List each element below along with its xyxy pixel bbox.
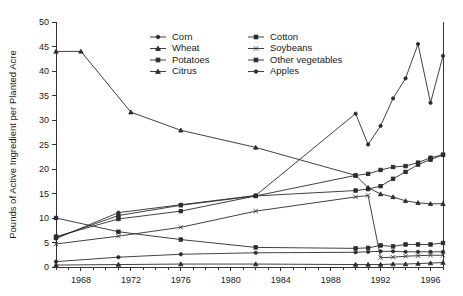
data-point-marker (404, 77, 407, 80)
data-point-marker (179, 238, 183, 242)
legend-label: Soybeans (270, 42, 313, 53)
series-soybeans (54, 193, 445, 260)
data-point-marker (156, 35, 160, 39)
legend-item-corn[interactable]: Corn (150, 31, 193, 42)
series-line (56, 263, 443, 265)
data-point-marker (54, 216, 58, 220)
data-point-marker (254, 251, 257, 254)
y-axis-title: Pounds of Active Ingredient per Planted … (7, 50, 18, 239)
data-point-marker (441, 250, 444, 253)
data-point-marker (378, 192, 382, 196)
data-point-marker (378, 262, 382, 266)
y-tick-label: 30 (39, 115, 49, 125)
data-point-marker (354, 189, 358, 193)
line-chart: 0510152025303540455019681972197619801984… (0, 0, 463, 296)
data-point-marker (428, 261, 432, 265)
y-tick-label: 50 (39, 17, 49, 27)
data-point-marker (441, 153, 445, 157)
data-point-marker (366, 187, 370, 191)
data-point-marker (441, 54, 444, 57)
data-point-marker (391, 97, 394, 100)
x-tick-label: 1984 (271, 275, 291, 285)
legend-item-potatoes[interactable]: Potatoes (150, 54, 210, 65)
data-point-marker (354, 112, 357, 115)
y-tick-label: 40 (39, 66, 49, 76)
series-citrus (54, 49, 445, 205)
data-point-marker (379, 124, 382, 127)
data-point-marker (416, 243, 420, 247)
y-axis-label: Pounds of Active Ingredient per Planted … (7, 50, 18, 239)
x-tick-label: 1976 (171, 275, 191, 285)
y-tick-label: 45 (39, 42, 49, 52)
legend-label: Other vegetables (270, 54, 343, 65)
data-point-marker (416, 261, 420, 265)
data-point-marker (429, 158, 433, 162)
x-tick-label: 1996 (421, 275, 441, 285)
data-point-marker (353, 262, 357, 266)
data-point-marker (403, 199, 407, 203)
data-point-marker (404, 164, 408, 168)
data-point-marker (441, 241, 445, 245)
data-point-marker (254, 35, 258, 39)
data-point-marker (391, 177, 395, 181)
data-point-marker (404, 243, 408, 247)
legend-label: Potatoes (172, 54, 210, 65)
data-point-marker (254, 58, 258, 62)
data-point-marker (416, 163, 420, 167)
data-point-marker (254, 194, 257, 197)
data-point-marker (117, 256, 120, 259)
data-point-marker (366, 246, 370, 250)
data-point-marker (441, 202, 445, 206)
data-point-marker (379, 168, 383, 172)
data-point-marker (366, 262, 370, 266)
chart-figure: 0510152025303540455019681972197619801984… (0, 0, 463, 296)
legend-item-cotton[interactable]: Cotton (248, 31, 298, 42)
legend-item-wheat[interactable]: Wheat (150, 42, 200, 53)
data-series-group (54, 42, 445, 266)
y-tick-label: 5 (44, 238, 49, 248)
data-point-marker (254, 145, 258, 149)
y-tick-label: 25 (39, 140, 49, 150)
data-point-marker (79, 49, 83, 53)
series-line (56, 195, 443, 257)
data-point-marker (404, 250, 407, 253)
x-tick-label: 1968 (71, 275, 91, 285)
data-point-marker (416, 250, 419, 253)
data-point-marker (254, 262, 258, 266)
data-point-marker (354, 247, 358, 251)
y-tick-label: 0 (44, 262, 49, 272)
legend-label: Wheat (172, 42, 200, 53)
series-line (56, 44, 443, 239)
data-point-marker (117, 211, 120, 214)
data-point-marker (428, 202, 432, 206)
data-point-marker (117, 217, 121, 221)
legend-item-apples[interactable]: Apples (248, 65, 299, 76)
data-point-marker (366, 172, 370, 176)
legend-item-other-vegetables[interactable]: Other vegetables (248, 54, 343, 65)
data-point-marker (404, 170, 408, 174)
data-point-marker (416, 201, 420, 205)
data-point-marker (403, 262, 407, 266)
x-tick-label: 1992 (371, 275, 391, 285)
legend-item-soybeans[interactable]: Soybeans (248, 42, 313, 53)
legend-item-citrus[interactable]: Citrus (150, 65, 197, 76)
data-point-marker (254, 70, 258, 74)
data-point-marker (179, 253, 182, 256)
data-point-marker (391, 165, 395, 169)
data-point-marker (429, 243, 433, 247)
data-point-marker (116, 262, 120, 266)
data-point-marker (354, 251, 357, 254)
series-cotton (54, 216, 445, 250)
series-line (56, 251, 443, 261)
data-point-marker (391, 262, 395, 266)
x-tick-label: 1980 (221, 275, 241, 285)
y-tick-label: 35 (39, 91, 49, 101)
y-tick-label: 15 (39, 189, 49, 199)
data-point-marker (179, 203, 182, 206)
legend-label: Corn (172, 31, 193, 42)
chart-legend: CornWheatPotatoesCitrusCottonSoybeansOth… (150, 31, 343, 77)
series-wheat (54, 260, 445, 266)
data-point-marker (54, 237, 57, 240)
legend-label: Apples (270, 65, 299, 76)
y-tick-label: 10 (39, 213, 49, 223)
